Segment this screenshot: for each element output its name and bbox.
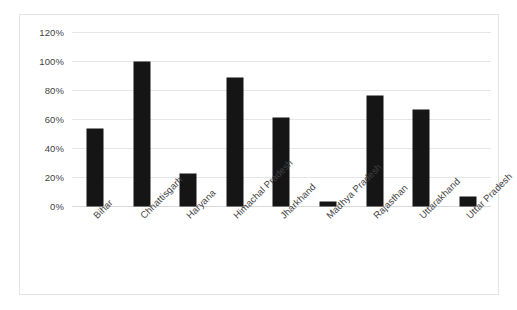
y-tick-label: 60% bbox=[45, 114, 64, 125]
plot-area bbox=[72, 32, 491, 206]
x-tick: Jharkhand bbox=[278, 208, 323, 226]
bar-slot bbox=[212, 32, 259, 206]
y-tick-label: 0% bbox=[50, 201, 64, 212]
y-tick-label: 40% bbox=[45, 143, 64, 154]
x-axis: BiharChhattisgarhHaryanaHimachal Pradesh… bbox=[72, 208, 491, 288]
x-tick: Bihar bbox=[91, 208, 114, 226]
y-axis: 0%20%40%60%80%100%120% bbox=[20, 32, 68, 206]
bar-slot bbox=[72, 32, 119, 206]
bar[interactable] bbox=[367, 96, 383, 206]
bar[interactable] bbox=[413, 110, 429, 206]
x-tick: Rajasthan bbox=[371, 208, 415, 226]
y-tick-label: 120% bbox=[39, 27, 64, 38]
bar-chart-figure: 0%20%40%60%80%100%120% BiharChhattisgarh… bbox=[19, 14, 499, 295]
bar-slot bbox=[305, 32, 352, 206]
bar[interactable] bbox=[87, 129, 103, 206]
bar[interactable] bbox=[227, 78, 243, 206]
bar-slot bbox=[119, 32, 166, 206]
x-tick: Uttarakhand bbox=[417, 208, 470, 226]
y-tick-label: 20% bbox=[45, 172, 64, 183]
bar[interactable] bbox=[134, 62, 150, 206]
x-tick: Haryana bbox=[184, 208, 221, 226]
x-tick: Uttar Pradesh bbox=[464, 208, 517, 226]
y-tick-label: 100% bbox=[39, 56, 64, 67]
bar-slot bbox=[398, 32, 445, 206]
y-tick-label: 80% bbox=[45, 85, 64, 96]
